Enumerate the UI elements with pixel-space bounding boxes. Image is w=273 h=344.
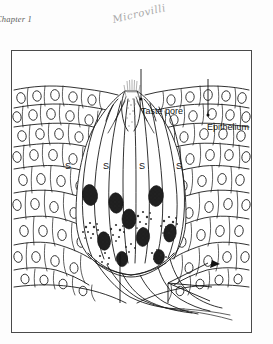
leader-dot-epithelium [207, 114, 210, 117]
arrowhead-afferent [210, 260, 220, 268]
page-canvas: Chapter 1 Microvilli .ln { fill:none; st… [0, 0, 273, 344]
figure-frame: .ln { fill:none; stroke:#1b1b1b; stroke-… [11, 50, 252, 333]
label-taste-pore: Taste pore [141, 106, 183, 117]
cell-marker-s-2: S [103, 161, 109, 171]
running-head: Chapter 1 [0, 14, 32, 24]
leader-dot-taste-pore [140, 98, 143, 101]
cell-marker-s-4: S [176, 161, 182, 171]
cell-marker-s-3: S [139, 161, 145, 171]
cell-marker-s-1: S [65, 161, 71, 171]
handwritten-microvilli-annotation: Microvilli [111, 2, 166, 25]
taste-bud-illustration: .ln { fill:none; stroke:#1b1b1b; stroke-… [12, 51, 251, 332]
label-epithelium: Epithelium [207, 122, 249, 133]
